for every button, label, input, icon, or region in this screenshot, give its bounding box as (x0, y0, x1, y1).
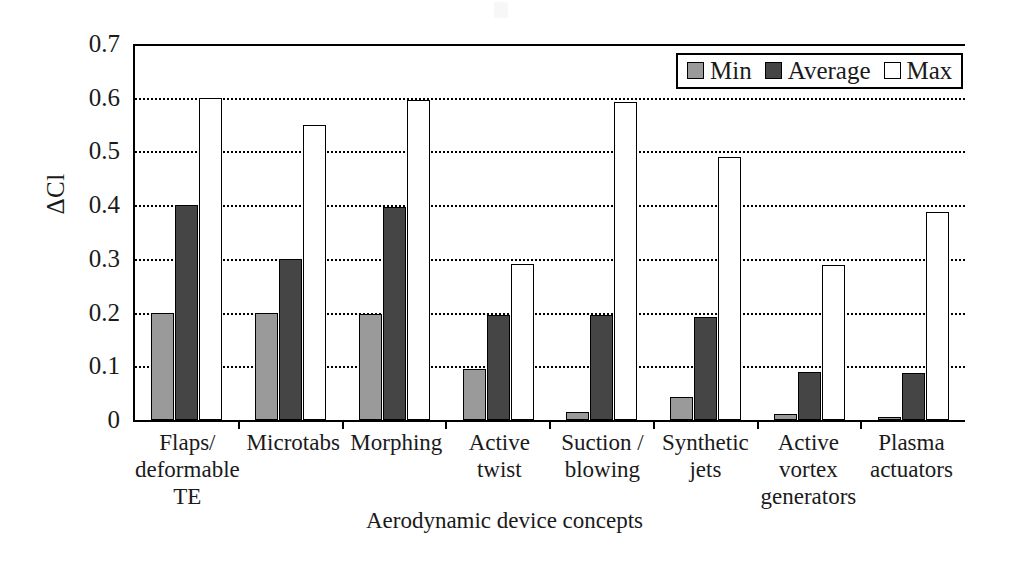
bar-average (590, 315, 613, 420)
bar-max (511, 264, 534, 420)
y-tick-label: 0.5 (50, 138, 120, 163)
x-tick-label: Suction /blowing (551, 430, 654, 510)
x-tick-label: Syntheticjets (654, 430, 757, 510)
bar-group (550, 44, 654, 420)
x-tick-label-line: Microtabs (244, 430, 343, 457)
bar-max (718, 157, 741, 420)
x-tick-label-line: Active (759, 430, 858, 457)
bar-average (487, 315, 510, 420)
bar-group (343, 44, 447, 420)
bar-max (822, 265, 845, 420)
x-tick-label: Microtabs (242, 430, 345, 510)
bar-group (239, 44, 343, 420)
bar-average (383, 207, 406, 420)
y-tick-label: 0 (50, 407, 120, 432)
bar-average (694, 317, 717, 420)
scan-artifact (494, 2, 508, 18)
bar-max (303, 125, 326, 420)
x-tick-label: Morphing (345, 430, 448, 510)
chart-legend: MinAverageMax (676, 53, 963, 89)
y-axis-tick-labels: 0.70.60.50.40.30.20.10 (42, 0, 120, 562)
x-tick-label-line: Synthetic (656, 430, 755, 457)
bar-min (774, 414, 797, 420)
bar-max (407, 100, 430, 420)
plot-area (133, 44, 965, 422)
x-axis-tick (342, 420, 344, 429)
bar-groups (135, 44, 965, 420)
x-tick-label-line: Flaps/ (135, 430, 240, 457)
x-tick-label-line: twist (450, 457, 549, 484)
x-axis-tick (445, 420, 447, 429)
bar-min (670, 397, 693, 420)
x-axis-tick (238, 420, 240, 429)
bar-group (861, 44, 965, 420)
bar-max (199, 98, 222, 420)
legend-label: Min (710, 58, 752, 83)
legend-swatch-min (687, 62, 704, 79)
x-axis-tick-labels: Flaps/deformableTEMicrotabsMorphingActiv… (133, 430, 963, 510)
x-tick-label-line: TE (135, 484, 240, 511)
x-tick-label-line: Plasma (862, 430, 961, 457)
y-tick-label: 0.2 (50, 300, 120, 325)
x-tick-label-line: jets (656, 457, 755, 484)
bar-average (279, 259, 302, 420)
legend-swatch-max (884, 62, 901, 79)
x-tick-label: Activetwist (448, 430, 551, 510)
x-tick-label-line: Morphing (347, 430, 446, 457)
legend-item: Average (765, 58, 871, 83)
bar-chart-figure: ΔCl 0.70.60.50.40.30.20.10 Flaps/deforma… (0, 0, 1009, 562)
x-tick-label-line: Active (450, 430, 549, 457)
x-tick-label-line: blowing (553, 457, 652, 484)
legend-item: Min (687, 58, 752, 83)
legend-swatch-avg (765, 62, 782, 79)
x-axis-tick (860, 420, 862, 429)
legend-item: Max (884, 58, 953, 83)
bar-group (758, 44, 862, 420)
bar-min (566, 412, 589, 420)
x-axis-tick (757, 420, 759, 429)
x-tick-label-line: generators (759, 484, 858, 511)
bar-group (446, 44, 550, 420)
bar-group (135, 44, 239, 420)
bar-min (878, 417, 901, 420)
bar-max (614, 102, 637, 420)
bar-average (798, 372, 821, 420)
bar-min (463, 369, 486, 420)
legend-label: Average (788, 58, 871, 83)
bar-max (926, 212, 949, 420)
bar-average (902, 373, 925, 420)
x-tick-label: Activevortexgenerators (757, 430, 860, 510)
legend-label: Max (907, 58, 953, 83)
bar-min (255, 313, 278, 420)
x-tick-label-line: deformable (135, 457, 240, 484)
y-tick-label: 0.6 (50, 85, 120, 110)
x-axis-tick (653, 420, 655, 429)
x-tick-label-line: actuators (862, 457, 961, 484)
x-tick-label-line: Suction / (553, 430, 652, 457)
y-tick-label: 0.3 (50, 246, 120, 271)
bar-min (151, 313, 174, 420)
x-axis-label: Aerodynamic device concepts (0, 508, 1009, 534)
y-tick-label: 0.1 (50, 353, 120, 378)
x-tick-label: Flaps/deformableTE (133, 430, 242, 510)
bar-average (175, 205, 198, 420)
y-tick-label: 0.4 (50, 192, 120, 217)
x-axis-tick (549, 420, 551, 429)
y-tick-label: 0.7 (50, 31, 120, 56)
x-tick-label-line: vortex (759, 457, 858, 484)
bar-min (359, 314, 382, 420)
x-tick-label: Plasmaactuators (860, 430, 963, 510)
bar-group (654, 44, 758, 420)
